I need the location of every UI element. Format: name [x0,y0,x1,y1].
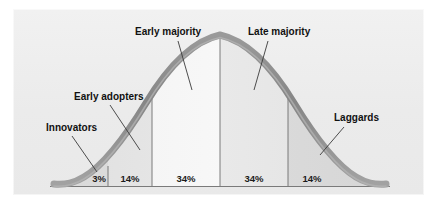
percentage-label-laggards: 14% [302,173,322,184]
callout-label-early-majority: Early majority [135,26,202,37]
callout-label-innovators: Innovators [46,122,98,133]
adoption-curve-figure: Innovators Early adopters Early majority… [0,0,436,211]
leader-line-innovators [72,136,97,172]
callout-label-laggards: Laggards [334,112,379,123]
percentage-label-early-adopters: 14% [120,173,140,184]
callout-label-late-majority: Late majority [248,26,311,37]
callout-label-early-adopters: Early adopters [74,91,144,102]
percentage-label-late-majority: 34% [244,173,264,184]
percentage-label-early-majority: 34% [176,173,196,184]
adoption-curve-chart: Innovators Early adopters Early majority… [0,0,436,211]
percentage-label-innovators: 3% [92,173,106,184]
